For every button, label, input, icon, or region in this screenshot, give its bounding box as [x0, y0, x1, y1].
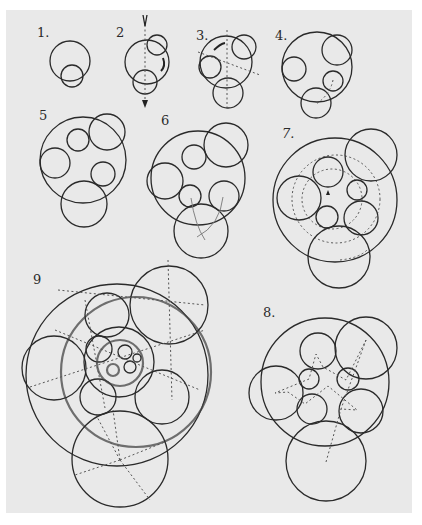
panel-label-4: 4.	[275, 28, 287, 43]
panel-label-8: 8.	[263, 305, 275, 320]
panel-label-2: 2	[116, 25, 124, 40]
panel-5	[40, 114, 126, 227]
panel-2	[125, 15, 169, 108]
panel-label-1: 1.	[37, 25, 49, 40]
panel-label-9: 9	[33, 272, 41, 287]
panel-label-6: 6	[161, 113, 169, 128]
panel-label-3: 3.	[196, 28, 208, 43]
panel-1	[50, 41, 90, 87]
panel-label-7: 7.	[282, 126, 294, 141]
panel-7	[273, 129, 397, 288]
panel-label-5: 5	[39, 108, 47, 123]
circle-packing-diagram: 1. 2 3. 4. 5 6 7. 8. 9	[0, 0, 422, 525]
panel-4	[282, 32, 352, 118]
panel-6	[147, 123, 248, 258]
panel-9	[22, 260, 211, 507]
panel-8	[249, 317, 397, 501]
